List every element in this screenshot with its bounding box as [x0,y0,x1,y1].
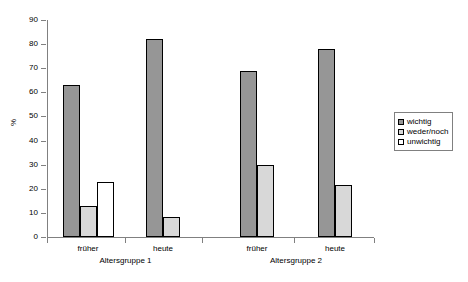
bar [80,206,97,237]
x-tick-mark [374,238,375,243]
bar [240,71,257,237]
chart-legend: wichtigweder/nochunwichtig [394,112,453,151]
y-tick-label: 60 [14,88,38,96]
legend-item-label: wichtig [407,117,431,126]
y-axis-line [47,20,48,238]
y-tick-mark [41,141,46,142]
chart-container: 0102030405060708090 früherheutefrüherheu… [0,0,468,282]
bar [97,182,114,237]
y-tick-label: 40 [14,137,38,145]
x-group-label: Altersgruppe 2 [270,256,322,265]
y-tick-label: 90 [14,16,38,24]
x-category-label: heute [325,244,345,253]
y-tick-label: 30 [14,161,38,169]
legend-item-label: unwichtig [407,137,440,146]
y-axis-title: % [9,119,18,126]
bar [257,165,274,237]
bar [335,185,352,237]
x-category-label: früher [247,244,268,253]
y-tick-label: 20 [14,185,38,193]
bar [63,85,80,237]
bar [318,49,335,237]
y-tick-label: 0 [14,233,38,241]
legend-item[interactable]: wichtig [398,117,448,126]
y-tick-mark [41,189,46,190]
plot-area: 0102030405060708090 früherheutefrüherheu… [47,20,374,238]
y-tick-mark [41,116,46,117]
legend-item-label: weder/noch [407,127,448,136]
y-tick-mark [41,68,46,69]
legend-swatch-icon [398,129,404,135]
legend-swatch-icon [398,119,404,125]
y-tick-label: 70 [14,64,38,72]
y-tick-mark [41,92,46,93]
x-tick-mark [125,238,126,243]
x-tick-mark [47,238,48,243]
x-category-label: heute [153,244,173,253]
y-tick-mark [41,213,46,214]
legend-swatch-icon [398,139,404,145]
bar [163,217,180,237]
x-axis-line [47,237,374,238]
y-tick-label: 80 [14,40,38,48]
x-category-label: früher [78,244,99,253]
bar [146,39,163,237]
x-group-label: Altersgruppe 1 [99,256,151,265]
y-tick-mark [41,165,46,166]
y-tick-mark [41,44,46,45]
y-tick-mark [41,20,46,21]
y-tick-mark [41,237,46,238]
x-tick-mark [202,238,203,243]
legend-item[interactable]: unwichtig [398,137,448,146]
legend-item[interactable]: weder/noch [398,127,448,136]
x-tick-mark [294,238,295,243]
y-tick-label: 10 [14,209,38,217]
